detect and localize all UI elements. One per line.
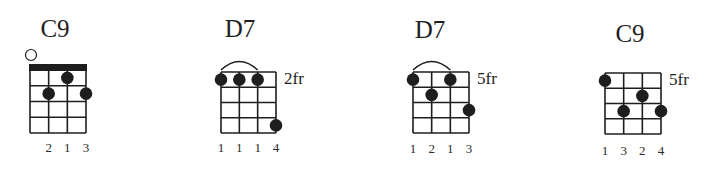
finger-number: 1 bbox=[602, 143, 609, 158]
finger-dot bbox=[251, 73, 264, 86]
chord-name: D7 bbox=[225, 15, 256, 42]
finger-number: 2 bbox=[45, 140, 52, 155]
finger-number: 3 bbox=[620, 143, 627, 158]
finger-dot bbox=[215, 73, 228, 86]
finger-number: 1 bbox=[447, 141, 454, 156]
chord-diagram-3: D75fr1213 bbox=[407, 16, 497, 156]
fret-position-label: 5fr bbox=[669, 70, 689, 89]
finger-number: 1 bbox=[410, 141, 417, 156]
chord-name: C9 bbox=[615, 20, 644, 47]
fret-position-label: 2fr bbox=[284, 69, 304, 88]
chord-diagram-1: C9213 bbox=[26, 15, 93, 155]
finger-number: 1 bbox=[64, 140, 71, 155]
finger-number: 2 bbox=[639, 143, 646, 158]
finger-dot bbox=[444, 73, 457, 86]
nut-bar bbox=[29, 64, 87, 71]
chord-name: D7 bbox=[415, 16, 446, 43]
finger-number: 1 bbox=[236, 140, 243, 155]
finger-dot bbox=[599, 74, 612, 87]
finger-number: 4 bbox=[273, 140, 280, 155]
chord-diagram-4: C95fr1324 bbox=[599, 20, 689, 158]
chord-chart: C9213D72fr1114D75fr1213C95fr1324 bbox=[0, 0, 710, 175]
finger-number: 2 bbox=[428, 141, 435, 156]
finger-number: 1 bbox=[218, 140, 225, 155]
chord-diagram-2: D72fr1114 bbox=[215, 15, 304, 155]
finger-dot bbox=[270, 119, 283, 132]
finger-dot bbox=[636, 90, 649, 103]
finger-dot bbox=[80, 87, 93, 100]
fret-position-label: 5fr bbox=[477, 69, 497, 88]
finger-dot bbox=[42, 87, 55, 100]
finger-number: 3 bbox=[83, 140, 90, 155]
chord-diagrams-canvas: C9213D72fr1114D75fr1213C95fr1324 bbox=[0, 0, 710, 175]
finger-dot bbox=[655, 105, 668, 118]
chord-name: C9 bbox=[40, 15, 69, 42]
finger-number: 4 bbox=[658, 143, 665, 158]
finger-dot bbox=[617, 105, 630, 118]
finger-dot bbox=[463, 104, 476, 117]
finger-number: 3 bbox=[466, 141, 473, 156]
finger-dot bbox=[407, 73, 420, 86]
open-string-icon bbox=[26, 50, 37, 61]
finger-dot bbox=[425, 89, 438, 102]
finger-dot bbox=[233, 73, 246, 86]
finger-number: 1 bbox=[254, 140, 261, 155]
finger-dot bbox=[61, 72, 74, 85]
barre-arc bbox=[413, 62, 450, 71]
barre-arc bbox=[221, 62, 258, 71]
